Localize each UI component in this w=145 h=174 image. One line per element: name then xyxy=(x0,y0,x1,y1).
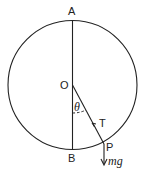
label-theta: θ xyxy=(74,100,80,114)
label-b: B xyxy=(68,152,75,164)
label-o: O xyxy=(60,79,69,91)
label-a: A xyxy=(68,5,76,17)
string-op xyxy=(73,85,105,144)
label-t: T xyxy=(99,117,106,129)
pendulum-diagram: A B O θ T P mg xyxy=(0,0,145,174)
label-mg: mg xyxy=(108,154,123,168)
label-p: P xyxy=(106,141,113,153)
